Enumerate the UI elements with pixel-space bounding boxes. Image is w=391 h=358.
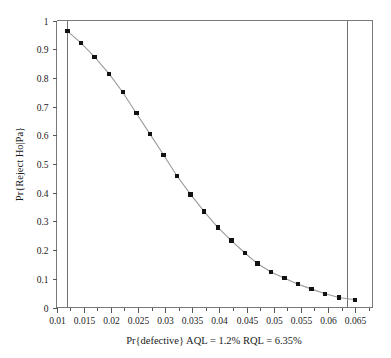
y-tick-label: 0.9 — [37, 45, 49, 55]
data-point-marker — [243, 251, 247, 255]
x-tick-label: 0.01 — [49, 316, 66, 326]
x-tick-label: 0.055 — [291, 316, 313, 326]
data-point-marker — [353, 298, 357, 302]
data-point-marker — [79, 41, 83, 45]
y-tick-label: 0.8 — [37, 74, 49, 84]
data-point-marker — [255, 261, 259, 265]
data-point-marker — [269, 270, 273, 274]
x-tick-label: 0.02 — [103, 316, 120, 326]
y-tick-label: 0.7 — [37, 103, 49, 113]
data-point-marker — [337, 295, 341, 299]
y-tick-label: 0.2 — [37, 246, 49, 256]
data-point-marker — [175, 174, 179, 178]
data-point-marker — [107, 72, 111, 76]
y-tick-label: 1 — [44, 17, 49, 27]
x-axis-title: Pr{defective} AQL = 1.2% RQL = 6.35% — [126, 335, 302, 346]
x-tick-label: 0.045 — [237, 316, 259, 326]
y-axis-tick-labels: 00.10.20.30.40.50.60.70.80.91 — [37, 17, 49, 314]
data-point-marker — [296, 282, 300, 286]
data-point-marker — [188, 192, 192, 196]
x-axis-tick-labels: 0.010.0150.020.0250.030.0350.040.0450.05… — [49, 316, 366, 326]
data-point-marker — [216, 225, 220, 229]
oc-curve-chart: 0.010.0150.020.0250.030.0350.040.0450.05… — [0, 0, 391, 358]
oc-curve-line — [67, 31, 355, 300]
y-axis-ticks — [53, 22, 57, 309]
x-tick-label: 0.015 — [74, 316, 96, 326]
y-tick-label: 0.6 — [37, 131, 49, 141]
reference-lines — [68, 21, 348, 308]
data-point-marker — [134, 111, 138, 115]
data-point-marker — [282, 276, 286, 280]
x-tick-label: 0.065 — [345, 316, 367, 326]
x-axis-ticks — [58, 308, 370, 313]
data-point-marker — [323, 292, 327, 296]
x-tick-label: 0.03 — [157, 316, 174, 326]
data-point-marker — [202, 209, 206, 213]
oc-curve-markers — [65, 29, 357, 302]
y-tick-label: 0.3 — [37, 217, 49, 227]
data-point-marker — [92, 55, 96, 59]
y-tick-label: 0 — [44, 304, 49, 314]
chart-canvas: 0.010.0150.020.0250.030.0350.040.0450.05… — [0, 0, 391, 358]
data-point-marker — [121, 90, 125, 94]
plot-frame — [57, 21, 373, 308]
data-point-marker — [65, 29, 69, 33]
data-point-marker — [148, 132, 152, 136]
y-tick-label: 0.4 — [37, 189, 49, 199]
x-tick-label: 0.05 — [266, 316, 283, 326]
y-axis-title: Pr{Reject Ho|Pa} — [14, 127, 25, 201]
data-point-marker — [161, 153, 165, 157]
data-point-marker — [229, 238, 233, 242]
y-tick-label: 0.5 — [37, 160, 49, 170]
x-tick-label: 0.025 — [128, 316, 150, 326]
x-tick-label: 0.04 — [211, 316, 228, 326]
data-point-marker — [309, 287, 313, 291]
x-tick-label: 0.06 — [320, 316, 337, 326]
x-tick-label: 0.035 — [182, 316, 204, 326]
y-tick-label: 0.1 — [37, 275, 49, 285]
